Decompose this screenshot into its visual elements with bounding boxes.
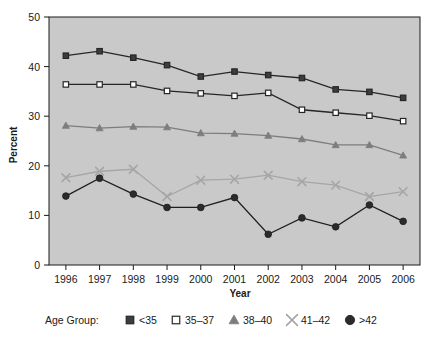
x-tick-label: 2003 — [290, 273, 314, 285]
data-point-marker — [63, 193, 70, 200]
legend-item-35[interactable]: <35 — [126, 314, 157, 326]
data-point-marker — [197, 204, 204, 211]
data-point-marker — [130, 191, 137, 198]
data-point-marker — [266, 90, 271, 95]
data-point-marker — [164, 62, 169, 67]
data-point-marker — [367, 113, 372, 118]
data-point-marker — [198, 91, 203, 96]
plot-area — [49, 17, 420, 265]
x-tick-label: 1997 — [88, 273, 112, 285]
y-tick-label: 30 — [28, 110, 40, 122]
chart-container: 01020304050 1996199719981999200020012002… — [0, 0, 433, 337]
data-point-marker — [164, 204, 171, 211]
data-point-marker — [400, 118, 405, 123]
data-point-marker — [299, 215, 306, 222]
legend-item-label: >42 — [359, 314, 377, 326]
data-point-marker — [265, 231, 272, 238]
y-axis-label: Percent — [8, 126, 19, 163]
legend-title: Age Group: — [45, 314, 99, 326]
plot-area-background — [49, 17, 420, 265]
y-tick-label: 0 — [34, 259, 40, 271]
legend-item-label: 41–42 — [301, 314, 330, 326]
data-point-marker — [172, 316, 180, 324]
data-point-marker — [266, 72, 271, 77]
legend-item-label: 35–37 — [185, 314, 214, 326]
data-point-marker — [400, 95, 405, 100]
data-point-marker — [231, 194, 238, 201]
data-point-marker — [63, 53, 68, 58]
data-point-marker — [366, 202, 373, 209]
x-tick-label: 2005 — [358, 273, 382, 285]
data-point-marker — [164, 88, 169, 93]
data-point-marker — [367, 89, 372, 94]
x-tick-label: 2004 — [324, 273, 348, 285]
y-tick-label: 50 — [28, 11, 40, 23]
legend-item-label: <35 — [139, 314, 157, 326]
x-tick-label: 1999 — [155, 273, 179, 285]
chart-legend: Age Group:<3535–3738–4041–42>42 — [45, 314, 377, 326]
data-point-marker — [198, 74, 203, 79]
x-tick-label: 2000 — [189, 273, 213, 285]
data-point-marker — [131, 82, 136, 87]
data-point-marker — [299, 75, 304, 80]
x-tick-label: 2002 — [257, 273, 281, 285]
data-point-marker — [299, 107, 304, 112]
data-point-marker — [400, 218, 407, 225]
data-point-marker — [345, 315, 354, 324]
data-point-marker — [232, 69, 237, 74]
legend-item-42[interactable]: >42 — [345, 314, 377, 326]
legend-item-3537[interactable]: 35–37 — [172, 314, 214, 326]
x-tick-label: 2006 — [391, 273, 415, 285]
x-tick-label: 1998 — [122, 273, 146, 285]
data-point-marker — [96, 175, 103, 182]
data-point-marker — [97, 82, 102, 87]
data-point-marker — [126, 316, 134, 324]
data-point-marker — [131, 55, 136, 60]
data-point-marker — [333, 87, 338, 92]
legend-item-label: 38–40 — [243, 314, 272, 326]
x-tick-label: 1996 — [54, 273, 78, 285]
data-point-marker — [232, 93, 237, 98]
y-tick-label: 20 — [28, 160, 40, 172]
y-tick-label: 40 — [28, 61, 40, 73]
data-point-marker — [333, 110, 338, 115]
data-point-marker — [332, 223, 339, 230]
data-point-marker — [63, 82, 68, 87]
data-point-marker — [97, 49, 102, 54]
y-tick-label: 10 — [28, 209, 40, 221]
line-chart: 01020304050 1996199719981999200020012002… — [0, 0, 433, 337]
x-tick-label: 2001 — [223, 273, 247, 285]
x-axis-label: Year — [229, 288, 250, 299]
